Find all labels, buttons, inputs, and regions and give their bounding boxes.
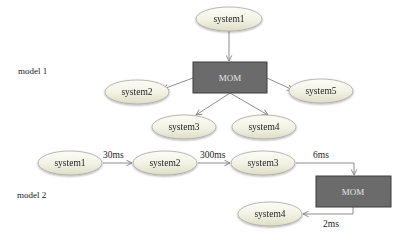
node-system5-m1[interactable]: system5 (289, 79, 353, 103)
edge-label-2ms: 2ms (323, 219, 339, 229)
node-label: system5 (305, 86, 336, 96)
edge-label-30ms: 30ms (103, 150, 124, 160)
edge-mom-to-system3 (196, 93, 230, 115)
edge-mom-to-system5 (267, 78, 293, 90)
model-2: model 2 30ms 300ms 6ms 2ms MOM system1 s… (17, 150, 391, 229)
node-system3-m2[interactable]: system3 (231, 151, 295, 175)
node-system1-m1[interactable]: system1 (196, 7, 262, 31)
edge-label-6ms: 6ms (313, 150, 329, 160)
model-1-label: model 1 (18, 66, 47, 76)
node-system4-m2[interactable]: system4 (238, 202, 302, 226)
mom-label: MOM (342, 187, 365, 197)
node-system2-m2[interactable]: system2 (133, 151, 197, 175)
mom-box-model-1[interactable]: MOM (193, 62, 267, 93)
node-label: system4 (248, 122, 279, 132)
edge-system3-to-mom (296, 163, 354, 175)
edge-label-300ms: 300ms (200, 150, 226, 160)
node-system3-m1[interactable]: system3 (152, 115, 216, 139)
edge-mom-to-system4 (303, 207, 353, 214)
node-label: system3 (247, 158, 278, 168)
model-1: model 1 MOM system1 system2 system5 (18, 7, 353, 139)
mom-box-model-2[interactable]: MOM (316, 176, 391, 207)
model-2-label: model 2 (17, 190, 46, 200)
diagram-canvas: model 1 MOM system1 system2 system5 (0, 0, 407, 240)
node-label: system1 (54, 158, 85, 168)
node-system2-m1[interactable]: system2 (105, 80, 169, 104)
node-label: system1 (213, 14, 244, 24)
node-label: system2 (121, 87, 152, 97)
node-label: system3 (168, 122, 199, 132)
node-label: system4 (254, 209, 285, 219)
edge-mom-to-system2 (163, 78, 193, 89)
node-system1-m2[interactable]: system1 (38, 151, 102, 175)
edge-mom-to-system4 (230, 93, 268, 115)
mom-label: MOM (219, 73, 242, 83)
node-system4-m1[interactable]: system4 (232, 115, 296, 139)
node-label: system2 (149, 158, 180, 168)
